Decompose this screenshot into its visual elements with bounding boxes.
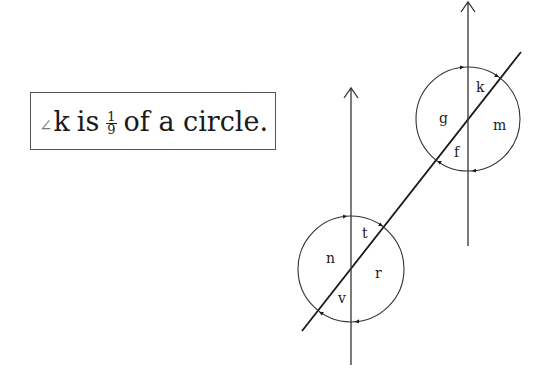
label-k: k [476,79,485,95]
label-g: g [439,110,448,126]
label-m: m [493,117,506,133]
transversal-diagram: k g m f t n r v [0,0,542,382]
label-f: f [454,144,461,160]
label-r: r [375,265,382,281]
label-n: n [326,250,335,266]
label-v: v [337,290,346,306]
label-t: t [362,225,368,241]
transversal-line [302,52,521,331]
